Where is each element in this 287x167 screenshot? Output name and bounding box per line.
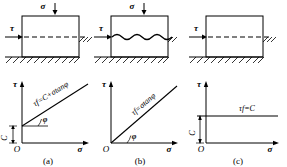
panel-c-equation-label: τf=C [239, 104, 255, 113]
panel-b-chart: τ σ O φ τf=σtanφ (b) [102, 79, 178, 166]
panel-b-equation-label: τf=σtanφ [129, 91, 157, 117]
panel-b-failure-plane-wavy [112, 35, 172, 40]
panel-a-tau-label: τ [10, 23, 15, 33]
panel-c-cohesion-label: C [188, 130, 197, 136]
panel-b-soil-block-rect [111, 16, 168, 57]
panel-b-block: σ τ [94, 1, 177, 63]
panel-a-sigma-label: σ [41, 1, 47, 11]
panel-a-x-axis-label: σ [78, 144, 84, 154]
panel-a-angle-arc [38, 119, 42, 126]
panel-a-y-axis-arrow [20, 81, 24, 87]
panel-b-origin-label: O [103, 144, 110, 154]
panel-c-origin-label: O [198, 144, 205, 154]
panel-b-x-axis-arrow [172, 141, 178, 145]
panel-b-angle-arc [127, 136, 131, 144]
figure-container: σ τ [0, 0, 287, 167]
panel-b-y-axis-arrow [109, 81, 113, 87]
panel-a-x-axis-arrow [83, 141, 89, 145]
panel-c-x-axis-arrow [273, 141, 279, 145]
panel-a-sigma-arrow-head [53, 10, 58, 15]
panel-a-angle-label: φ [43, 115, 48, 124]
panel-a-origin-label: O [14, 144, 21, 154]
panel-b-failure-envelope-line [111, 86, 177, 143]
panel-c-tau-label: τ [194, 23, 199, 33]
panel-a-caption: (a) [43, 156, 53, 166]
panel-c-bottom-hatching [190, 57, 264, 63]
panel-b-tau-label: τ [99, 23, 104, 33]
panel-a-bottom-hatching [6, 57, 80, 63]
panel-b-sigma-arrow-head [142, 10, 147, 15]
panel-a-cohesion-label: C [0, 135, 9, 141]
panel-b-bottom-hatching [95, 57, 169, 63]
panel-c-y-axis-arrow [204, 81, 208, 87]
panel-b-y-axis-label: τ [102, 79, 107, 89]
shear-strength-figure: σ τ [0, 0, 287, 167]
panel-b-angle-label: φ [132, 132, 137, 141]
panel-a-chart: τ σ O φ τf=C+σtanφ C (a) [0, 79, 89, 166]
panel-b-x-axis-label: σ [167, 144, 173, 154]
panel-a-equation-label: τf=C+σtanφ [31, 79, 70, 108]
panel-c-right-hatching [263, 37, 276, 42]
panel-a-right-hatching [79, 37, 92, 42]
panel-c-chart: τ σ O τf=C C (c) [188, 79, 279, 166]
panel-c-x-axis-label: σ [268, 144, 274, 154]
panel-c-block: τ [189, 16, 276, 63]
panel-b-caption: (b) [135, 156, 146, 166]
panel-a-block: σ τ [5, 1, 92, 63]
panel-c-y-axis-label: τ [197, 79, 202, 89]
panel-b-sigma-label: σ [130, 1, 136, 11]
panel-c-cohesion-dimension: C [188, 115, 204, 144]
panel-a-y-axis-label: τ [13, 79, 18, 89]
panel-c-caption: (c) [233, 156, 243, 166]
panel-a-cohesion-dimension: C [0, 125, 17, 144]
